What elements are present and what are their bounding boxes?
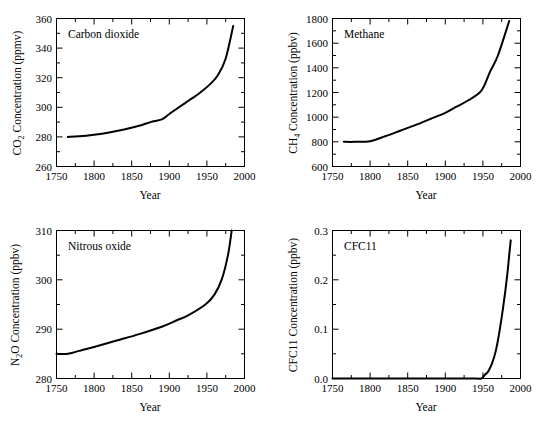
y-tick-label: 0.3 xyxy=(314,225,328,237)
svg-text:CH4 Concentration (ppbv): CH4 Concentration (ppbv) xyxy=(287,32,302,154)
panel-nitrous-oxide: N2O Concentration (ppbv) Nitrous oxide 2… xyxy=(0,212,276,425)
y-axis-title-post: Concentration (ppmv) xyxy=(11,30,24,135)
x-tick-labels-co2: 1750 1800 1850 1900 1950 2000 xyxy=(46,170,257,182)
y-tick-label: 0.2 xyxy=(314,274,328,286)
y-axis-title-n2o: N2O Concentration (ppbv) xyxy=(9,244,24,366)
y-tick-label: 300 xyxy=(36,101,53,113)
panel-carbon-dioxide: CO2 Concentration (ppmv) Carbon dioxide … xyxy=(0,0,276,213)
y-axis-title-pre: CO xyxy=(11,139,23,155)
x-tick-labels-n2o: 1750 1800 1850 1900 1950 2000 xyxy=(46,382,257,394)
y-ticks-ch4 xyxy=(333,19,521,167)
x-tick-label: 1900 xyxy=(434,382,457,394)
x-tick-label: 1850 xyxy=(121,382,144,394)
x-tick-label: 1900 xyxy=(158,170,181,182)
greenhouse-gas-figure: CO2 Concentration (ppmv) Carbon dioxide … xyxy=(0,0,552,425)
x-axis-title-cfc11: Year xyxy=(415,401,436,413)
plot-frame-cfc11 xyxy=(333,231,521,379)
y-tick-labels-ch4: 600 800 1000 1200 1400 1600 1800 xyxy=(306,13,329,173)
x-axis-title-co2: Year xyxy=(139,189,160,201)
x-ticks-n2o xyxy=(57,231,245,379)
y-axis-title-post: Concentration (ppbv) xyxy=(287,32,300,134)
svg-text:CO2 Concentration (ppmv): CO2 Concentration (ppmv) xyxy=(11,30,26,155)
x-tick-label: 1850 xyxy=(397,382,420,394)
x-ticks-co2 xyxy=(57,19,245,167)
y-tick-label: 0.1 xyxy=(314,323,328,335)
y-axis-title-pre: CH xyxy=(287,138,299,154)
y-axis-title-co2: CO2 Concentration (ppmv) xyxy=(11,30,26,155)
x-ticks-cfc11 xyxy=(333,231,521,379)
y-tick-label: 1000 xyxy=(306,111,329,123)
panel-title-methane: Methane xyxy=(344,28,384,40)
data-curve-cfc11 xyxy=(333,240,511,378)
x-axis-title-ch4: Year xyxy=(415,189,436,201)
x-tick-label: 2000 xyxy=(510,382,533,394)
y-tick-label: 360 xyxy=(36,13,53,25)
y-tick-label: 310 xyxy=(36,225,53,237)
y-tick-label: 1600 xyxy=(306,37,329,49)
y-tick-label: 320 xyxy=(36,72,53,84)
panel-title-cfc11: CFC11 xyxy=(344,240,377,252)
x-tick-label: 1800 xyxy=(359,170,382,182)
y-tick-label: 800 xyxy=(312,136,329,148)
plot-frame-co2 xyxy=(57,19,245,167)
y-tick-labels-n2o: 280 290 300 310 xyxy=(36,225,53,385)
svg-text:CFC11 Concentration (ppbv): CFC11 Concentration (ppbv) xyxy=(287,238,300,373)
x-tick-label: 1900 xyxy=(434,170,457,182)
x-tick-label: 2000 xyxy=(510,170,533,182)
x-axis-title-n2o: Year xyxy=(139,401,160,413)
x-tick-label: 1950 xyxy=(472,382,495,394)
x-tick-label: 1950 xyxy=(196,170,219,182)
x-tick-label: 1800 xyxy=(359,382,382,394)
x-tick-label: 1800 xyxy=(83,170,106,182)
x-tick-label: 1750 xyxy=(322,382,345,394)
x-tick-label: 1750 xyxy=(322,170,345,182)
x-tick-label: 2000 xyxy=(234,170,257,182)
y-axis-title-pre: CFC11 Concentration (ppbv) xyxy=(287,238,300,373)
y-tick-label: 1400 xyxy=(306,62,329,74)
y-axis-title-post: O Concentration (ppbv) xyxy=(9,244,22,354)
x-ticks-ch4 xyxy=(333,19,521,167)
y-ticks-n2o xyxy=(57,231,245,379)
panel-methane: CH4 Concentration (ppbv) Methane 600 800 xyxy=(276,0,552,213)
panel-title-nitrous-oxide: Nitrous oxide xyxy=(68,240,131,252)
y-axis-title-cfc11: CFC11 Concentration (ppbv) xyxy=(287,238,300,373)
plot-frame-ch4 xyxy=(333,19,521,167)
y-tick-label: 1800 xyxy=(306,13,329,25)
panel-cfc11: CFC11 Concentration (ppbv) CFC11 0.0 0.1 xyxy=(276,212,552,425)
x-tick-labels-cfc11: 1750 1800 1850 1900 1950 2000 xyxy=(322,382,533,394)
y-ticks-cfc11 xyxy=(333,231,521,379)
y-ticks-co2 xyxy=(57,19,245,167)
y-tick-labels-co2: 260 280 300 320 340 360 xyxy=(36,13,53,173)
y-tick-label: 290 xyxy=(36,323,53,335)
x-tick-label: 1850 xyxy=(121,170,144,182)
plot-frame-n2o xyxy=(57,231,245,379)
y-tick-label: 280 xyxy=(36,131,53,143)
x-tick-label: 2000 xyxy=(234,382,257,394)
y-axis-title-ch4: CH4 Concentration (ppbv) xyxy=(287,32,302,154)
x-tick-label: 1750 xyxy=(46,382,69,394)
x-tick-label: 1900 xyxy=(158,382,181,394)
x-tick-label: 1950 xyxy=(196,382,219,394)
x-tick-label: 1850 xyxy=(397,170,420,182)
y-tick-label: 340 xyxy=(36,42,53,54)
data-curve-co2 xyxy=(68,26,233,137)
y-tick-label: 300 xyxy=(36,274,53,286)
x-tick-label: 1800 xyxy=(83,382,106,394)
x-tick-labels-ch4: 1750 1800 1850 1900 1950 2000 xyxy=(322,170,533,182)
svg-text:N2O Concentration (ppbv): N2O Concentration (ppbv) xyxy=(9,244,24,366)
panel-title-carbon-dioxide: Carbon dioxide xyxy=(68,28,139,40)
x-tick-label: 1950 xyxy=(472,170,495,182)
x-tick-label: 1750 xyxy=(46,170,69,182)
y-tick-labels-cfc11: 0.0 0.1 0.2 0.3 xyxy=(314,225,328,385)
y-tick-label: 1200 xyxy=(306,87,329,99)
